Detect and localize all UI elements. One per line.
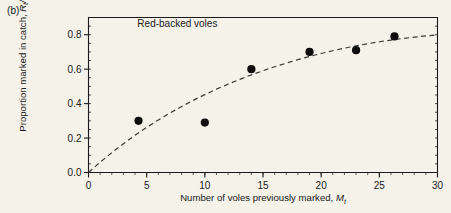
y-tick-label: 0.2 [68, 133, 82, 144]
x-tick-label: 20 [316, 180, 328, 191]
fitted-curve [89, 35, 438, 173]
y-tick-label: 0.8 [68, 29, 82, 40]
data-point [201, 118, 209, 126]
plot-frame [89, 18, 438, 173]
chart-figure: (b) Proportion marked in catch, Rt/Ct Nu… [0, 0, 451, 213]
minor-tick-marks [89, 18, 438, 176]
data-point [352, 46, 360, 54]
data-point [305, 48, 313, 56]
y-tick-labels: 0.00.20.40.60.8 [68, 29, 82, 178]
x-tick-label: 30 [432, 180, 444, 191]
y-tick-label: 0.6 [68, 64, 82, 75]
major-tick-marks [84, 35, 438, 178]
x-tick-label: 15 [257, 180, 269, 191]
data-point [134, 117, 142, 125]
y-tick-label: 0.4 [68, 98, 82, 109]
x-tick-label: 25 [374, 180, 386, 191]
data-point [247, 65, 255, 73]
y-tick-label: 0.0 [68, 167, 82, 178]
data-point [390, 32, 398, 40]
x-tick-label: 10 [199, 180, 211, 191]
x-tick-label: 0 [86, 180, 92, 191]
series-annotation-label: Red-backed voles [137, 18, 217, 29]
chart-annotation: Red-backed voles [137, 18, 217, 29]
fitted-curve-path [89, 35, 438, 173]
data-points [134, 32, 398, 126]
plot-area: 051015202530 0.00.20.40.60.8 Red-backed … [0, 0, 451, 213]
x-tick-labels: 051015202530 [86, 180, 444, 191]
x-tick-label: 5 [144, 180, 150, 191]
